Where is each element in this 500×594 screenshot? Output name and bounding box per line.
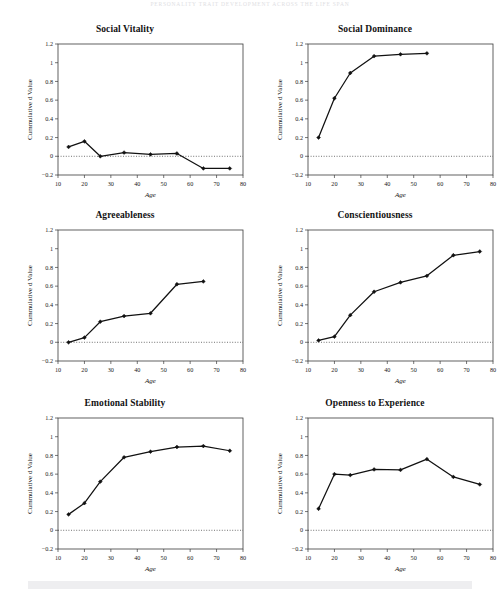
data-point-marker <box>122 314 126 318</box>
x-tick-label: 80 <box>490 554 496 561</box>
x-axis-title: Age <box>394 565 406 573</box>
y-tick-label: 0.2 <box>295 508 303 515</box>
y-axis-title: Cummulative d Value <box>26 265 34 326</box>
x-tick-label: 40 <box>134 366 140 373</box>
y-tick-label: 0.8 <box>295 78 303 85</box>
x-tick-label: 20 <box>81 180 87 187</box>
x-tick-label: 10 <box>305 366 311 373</box>
x-tick-label: 40 <box>384 366 390 373</box>
y-tick-label: −0.2 <box>292 545 303 552</box>
x-tick-label: 70 <box>463 180 469 187</box>
x-tick-label: 10 <box>55 366 61 373</box>
y-tick-label: −0.2 <box>42 545 53 552</box>
y-tick-label: 0.8 <box>45 452 53 459</box>
data-point-marker <box>175 445 179 449</box>
y-tick-label: 1 <box>50 245 53 252</box>
y-tick-label: 0.4 <box>295 115 303 122</box>
y-tick-label: 0.4 <box>45 115 53 122</box>
y-axis-title: Cummulative d Value <box>26 453 34 514</box>
data-point-marker <box>478 250 482 254</box>
x-tick-label: 30 <box>108 180 114 187</box>
x-tick-label: 70 <box>463 554 469 561</box>
y-tick-label: 0 <box>50 338 53 345</box>
x-tick-label: 60 <box>187 554 193 561</box>
x-tick-label: 30 <box>358 554 364 561</box>
y-tick-label: 0.8 <box>45 264 53 271</box>
plot-area: −0.200.20.40.60.811.21020304050607080Age… <box>0 396 250 586</box>
y-tick-label: −0.2 <box>292 171 303 178</box>
x-tick-label: 60 <box>187 180 193 187</box>
y-tick-label: 1 <box>300 433 303 440</box>
y-tick-label: 1 <box>300 59 303 66</box>
chart-panel: Agreeableness−0.200.20.40.60.811.2102030… <box>0 208 250 398</box>
x-tick-label: 60 <box>437 554 443 561</box>
x-tick-label: 40 <box>384 554 390 561</box>
y-tick-label: 0.2 <box>45 508 53 515</box>
x-tick-label: 20 <box>331 554 337 561</box>
y-tick-label: 0.6 <box>295 470 303 477</box>
data-point-marker <box>149 450 153 454</box>
x-tick-label: 50 <box>411 554 417 561</box>
y-tick-label: 1.2 <box>45 40 53 47</box>
x-tick-label: 70 <box>213 366 219 373</box>
chart-panel: Conscientiousness−0.200.20.40.60.811.210… <box>250 208 500 398</box>
y-tick-label: 0 <box>50 526 53 533</box>
x-tick-label: 50 <box>411 366 417 373</box>
y-tick-label: 1.2 <box>45 414 53 421</box>
x-tick-label: 20 <box>331 366 337 373</box>
x-tick-label: 50 <box>161 180 167 187</box>
y-tick-label: 0.6 <box>295 96 303 103</box>
y-tick-label: 1.2 <box>45 226 53 233</box>
plot-area: −0.200.20.40.60.811.21020304050607080Age… <box>0 208 250 398</box>
data-point-marker <box>122 151 126 155</box>
y-tick-label: 1.2 <box>295 40 303 47</box>
x-tick-label: 70 <box>463 366 469 373</box>
x-tick-label: 20 <box>81 554 87 561</box>
plot-area: −0.200.20.40.60.811.21020304050607080Age… <box>250 22 500 212</box>
y-tick-label: 0.6 <box>45 470 53 477</box>
x-tick-label: 70 <box>213 180 219 187</box>
y-tick-label: 1 <box>50 433 53 440</box>
y-tick-label: 0.4 <box>45 301 53 308</box>
y-tick-label: 0.2 <box>45 134 53 141</box>
y-tick-label: 0.2 <box>295 320 303 327</box>
x-axis-title: Age <box>394 191 406 199</box>
data-point-marker <box>149 153 153 157</box>
y-tick-label: 0.6 <box>45 282 53 289</box>
y-tick-label: −0.2 <box>42 171 53 178</box>
x-axis-title: Age <box>144 191 156 199</box>
data-point-marker <box>201 280 205 284</box>
y-tick-label: 0.8 <box>295 452 303 459</box>
y-tick-label: 1.2 <box>295 414 303 421</box>
y-tick-label: −0.2 <box>292 357 303 364</box>
x-axis-title: Age <box>394 377 406 385</box>
x-tick-label: 30 <box>108 366 114 373</box>
y-tick-label: 0 <box>300 526 303 533</box>
x-axis-title: Age <box>144 377 156 385</box>
y-axis-title: Cummulative d Value <box>276 265 284 326</box>
chart-panel: Openness to Experience−0.200.20.40.60.81… <box>250 396 500 586</box>
x-tick-label: 80 <box>490 366 496 373</box>
x-tick-label: 80 <box>240 366 246 373</box>
data-point-marker <box>228 167 232 171</box>
y-tick-label: 0 <box>300 338 303 345</box>
x-tick-label: 30 <box>108 554 114 561</box>
y-tick-label: 0.2 <box>45 320 53 327</box>
x-tick-label: 30 <box>358 366 364 373</box>
data-point-marker <box>399 281 403 285</box>
x-axis-title: Age <box>144 565 156 573</box>
data-point-marker <box>228 449 232 453</box>
y-tick-label: 0 <box>300 152 303 159</box>
data-point-marker <box>333 472 337 476</box>
data-point-marker <box>67 145 71 149</box>
y-tick-label: 1 <box>50 59 53 66</box>
plot-area: −0.200.20.40.60.811.21020304050607080Age… <box>250 396 500 586</box>
chart-panel: Social Vitality−0.200.20.40.60.811.21020… <box>0 22 250 212</box>
running-head: PERSONALITY TRAIT DEVELOPMENT ACROSS THE… <box>0 0 500 9</box>
x-tick-label: 40 <box>384 180 390 187</box>
x-tick-label: 30 <box>358 180 364 187</box>
x-tick-label: 80 <box>240 554 246 561</box>
y-tick-label: 0.8 <box>295 264 303 271</box>
data-point-marker <box>317 339 321 343</box>
x-tick-label: 10 <box>305 554 311 561</box>
